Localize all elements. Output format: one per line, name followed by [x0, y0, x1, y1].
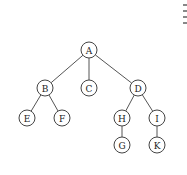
tree-diagram: ABCDEFHIGK — [0, 0, 187, 175]
node-F: F — [54, 110, 70, 126]
node-label: G — [118, 141, 125, 151]
edge-text-fragment — [181, 0, 187, 34]
node-label: F — [59, 114, 65, 124]
node-label: D — [134, 84, 141, 94]
node-label: I — [155, 114, 159, 124]
nodes: ABCDEFHIGK — [19, 42, 165, 153]
node-A: A — [81, 42, 97, 58]
node-label: E — [24, 114, 31, 124]
fragment-mark — [183, 4, 187, 6]
edge-D-I — [142, 95, 152, 111]
node-I: I — [149, 110, 165, 126]
edge-B-E — [31, 95, 41, 111]
node-E: E — [19, 110, 35, 126]
node-label: K — [154, 141, 161, 151]
edge-B-F — [49, 95, 58, 111]
node-C: C — [81, 80, 97, 96]
node-G: G — [114, 137, 130, 153]
node-label: B — [42, 84, 49, 94]
node-label: H — [118, 114, 126, 124]
node-D: D — [130, 80, 146, 96]
node-B: B — [37, 80, 53, 96]
edge-A-D — [95, 55, 131, 83]
fragment-mark — [183, 10, 187, 12]
node-label: A — [85, 46, 93, 56]
fragment-mark — [183, 22, 187, 24]
node-label: C — [86, 84, 93, 94]
edge-A-B — [51, 55, 83, 83]
edge-D-H — [126, 95, 134, 111]
node-H: H — [114, 110, 130, 126]
node-K: K — [149, 137, 165, 153]
fragment-mark — [183, 16, 187, 18]
